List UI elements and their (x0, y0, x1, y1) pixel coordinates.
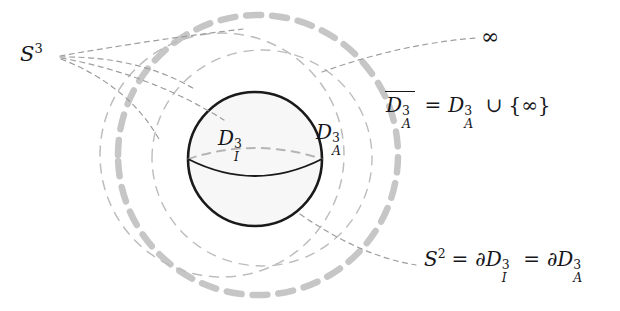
boundary-d1-subscript: I (502, 270, 507, 285)
closure-overline: D3A (386, 93, 414, 117)
closure-infinity: ∞ (521, 93, 538, 117)
closure-equals: = (414, 93, 448, 117)
closure-right-brace: } (538, 93, 551, 117)
boundary-s-exponent: 2 (438, 246, 446, 261)
label-d3-outer: D3A (316, 120, 344, 144)
closure-lhs-subscript: A (402, 116, 411, 131)
label-s3: S3 (20, 42, 43, 66)
boundary-partial-2: ∂ (547, 247, 557, 271)
boundary-partial-1: ∂ (475, 247, 485, 271)
boundary-equals-1: = (446, 247, 476, 271)
equation-closure: D3A=D3A∪{∞} (386, 93, 551, 117)
boundary-d2-subscript: A (573, 270, 582, 285)
closure-left-brace: { (508, 93, 521, 117)
equation-boundary: S2=∂D3I=∂D3A (424, 247, 586, 271)
boundary-equals-2: = (514, 247, 547, 271)
label-infinity: ∞ (481, 24, 499, 49)
label-d3-outer-subscript: A (332, 143, 341, 158)
sphere-d3-inner (188, 92, 322, 226)
label-d3-inner-subscript: I (234, 149, 239, 164)
closure-union-operator: ∪ (477, 93, 509, 117)
label-s3-exponent: 3 (34, 41, 42, 56)
closure-rhs-subscript: A (464, 116, 473, 131)
label-d3-inner: D3I (218, 126, 246, 150)
